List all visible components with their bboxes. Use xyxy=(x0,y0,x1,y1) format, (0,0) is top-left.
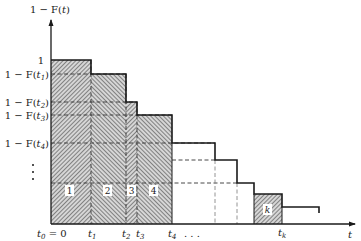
region-3 xyxy=(126,102,137,224)
region-label-2: 2 xyxy=(105,186,111,196)
x-tick-t2: t2 xyxy=(122,228,131,241)
region-label-k: k xyxy=(265,205,270,215)
y-tick-t3: 1 − F(t3) xyxy=(5,110,49,123)
y-tick-1: 1 xyxy=(38,55,44,66)
x-tick-tk: tk xyxy=(278,227,286,240)
y-tick-t4: 1 − F(t4) xyxy=(5,138,49,151)
y-axis-title: 1 − F(t) xyxy=(30,4,70,15)
hatched-regions xyxy=(51,60,282,224)
x-tick-t4: t4 xyxy=(168,228,177,241)
y-tick-labels: 1 1 − F(t1) 1 − F(t2) 1 − F(t3) 1 − F(t4… xyxy=(5,55,49,180)
region-label-3: 3 xyxy=(129,186,135,196)
region-label-4: 4 xyxy=(151,186,157,196)
region-4 xyxy=(137,115,172,224)
x-tick-labels: t0 = 0 t1 t2 t3 t4 . . . tk t xyxy=(37,227,353,241)
region-2 xyxy=(91,74,126,224)
region-1 xyxy=(51,60,91,224)
y-tick-t2: 1 − F(t2) xyxy=(5,97,49,110)
x-tick-t0: t0 = 0 xyxy=(37,228,67,241)
y-ellipsis-icon xyxy=(32,164,34,180)
region-label-1: 1 xyxy=(67,186,73,196)
y-tick-t1: 1 − F(t1) xyxy=(5,69,49,82)
x-axis-title: t xyxy=(348,229,353,240)
survival-step-diagram: 1 − F(t) 1 1 − F(t1) 1 − F(t2) 1 − F(t3)… xyxy=(0,0,361,241)
x-ellipsis: . . . xyxy=(184,228,200,239)
x-tick-t1: t1 xyxy=(88,228,97,241)
x-tick-t3: t3 xyxy=(136,228,145,241)
